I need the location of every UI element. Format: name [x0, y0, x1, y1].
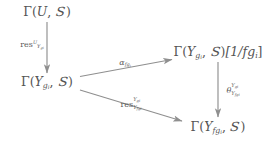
subscript-fg: fgi: [212, 126, 222, 135]
subscript-fgi: fgi: [125, 61, 131, 67]
node-arg-U: U: [37, 4, 48, 19]
sheaf-script-S: S: [209, 46, 222, 59]
bracket-close: ]: [258, 44, 263, 59]
res-operator: res: [20, 40, 33, 49]
gamma-symbol: Γ: [191, 119, 200, 134]
sup-sub-stack: YgiYfgi: [231, 84, 239, 98]
gamma-symbol: Γ: [23, 4, 32, 19]
superscript-Ygi: Ygi: [133, 97, 141, 104]
gamma-symbol: Γ: [173, 44, 182, 59]
subscript-Yfgi: Yfgi: [133, 106, 141, 113]
sheaf-script-S: S: [56, 76, 69, 89]
sub-i-letter: i: [130, 64, 131, 68]
sub-i-letter: i: [238, 93, 239, 97]
node-gamma-Yfgi-S: Γ(Yfgi, S): [191, 121, 246, 134]
paren-close: ): [241, 119, 246, 134]
sub-fg-letters: fg: [212, 126, 220, 135]
res-operator: res: [120, 100, 133, 109]
sheaf-script-S: S: [54, 6, 67, 19]
commutative-diagram: Γ(U, S) Γ(Ygi, S) Γ(Ygi, S)[1/fgi] Γ(Yfg…: [0, 0, 277, 149]
node-arg-Y: Y: [35, 74, 43, 89]
sup-i-letter: i: [237, 85, 238, 89]
sub-i-letter: i: [140, 107, 141, 111]
node-arg-Y: Y: [204, 119, 212, 134]
subscript-Ygi: Ygi: [37, 43, 44, 49]
node-gamma-U-S: Γ(U, S): [23, 6, 71, 19]
label-restriction-Ygi-to-Yfgi: resYgiYfgi: [120, 98, 141, 112]
sup-i-letter: i: [139, 99, 140, 103]
node-gamma-Ygi-S: Γ(Ygi, S): [21, 76, 73, 89]
superscript-Ygi: Ygi: [231, 83, 239, 90]
gamma-symbol: Γ: [21, 74, 30, 89]
label-theta-Ygi-Yfgi: θYgiYfgi: [226, 84, 239, 98]
sheaf-script-S: S: [229, 121, 242, 134]
sup-sub-stack: YgiYfgi: [133, 98, 141, 112]
localization-bracket: [1/fg: [225, 44, 255, 59]
subscript-g: gi: [195, 51, 202, 60]
subscript-Yfgi: Yfgi: [231, 92, 239, 99]
sub-i-letter: i: [43, 46, 44, 50]
node-gamma-Ygi-S-localized: Γ(Ygi, S)[1/fgi]: [173, 46, 262, 59]
label-restriction-U-to-Ygi: resUYgi: [20, 41, 44, 49]
subscript-g: gi: [43, 81, 50, 90]
node-arg-Y: Y: [187, 44, 195, 59]
label-alpha-fgi: αfgi: [119, 59, 131, 67]
